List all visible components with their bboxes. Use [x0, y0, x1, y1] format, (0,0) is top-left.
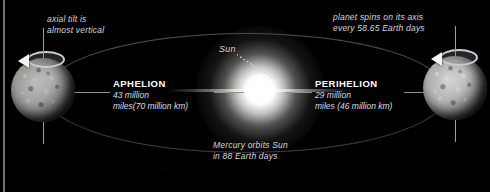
spin-leader-line [455, 31, 456, 53]
axial-tilt-leader-line [43, 33, 44, 57]
aphelion-title: APHELION [113, 78, 188, 90]
orbital-period-annotation: Mercury orbits Sun in 88 Earth days [213, 140, 288, 162]
perihelion-measure-rule-left [286, 92, 312, 93]
perihelion-title: PERIHELION [315, 78, 392, 90]
aphelion-label-group: APHELION 43 million miles(70 million km) [113, 78, 188, 112]
perihelion-spin-ring-icon [440, 49, 478, 66]
aphelion-spin-arrow-icon [18, 54, 29, 68]
aphelion-measure-rule-right [214, 92, 244, 93]
perihelion-spin-arrow-icon [431, 52, 442, 66]
aphelion-distance: 43 million miles(70 million km) [113, 90, 188, 112]
perihelion-label-group: PERIHELION 29 million miles (46 million … [315, 78, 392, 112]
spin-annotation: planet spins on its axis every 58.65 Ear… [333, 12, 425, 34]
aphelion-spin-ring-icon [27, 51, 65, 68]
sun-label: Sun [219, 44, 236, 55]
left-edge-rule [3, 0, 5, 192]
sun-core [244, 74, 276, 106]
mercury-orbit-diagram: Sun axial tilt is almost vertical planet… [0, 0, 490, 192]
perihelion-distance: 29 million miles (46 million km) [315, 90, 392, 112]
axial-tilt-annotation: axial tilt is almost vertical [47, 14, 104, 36]
